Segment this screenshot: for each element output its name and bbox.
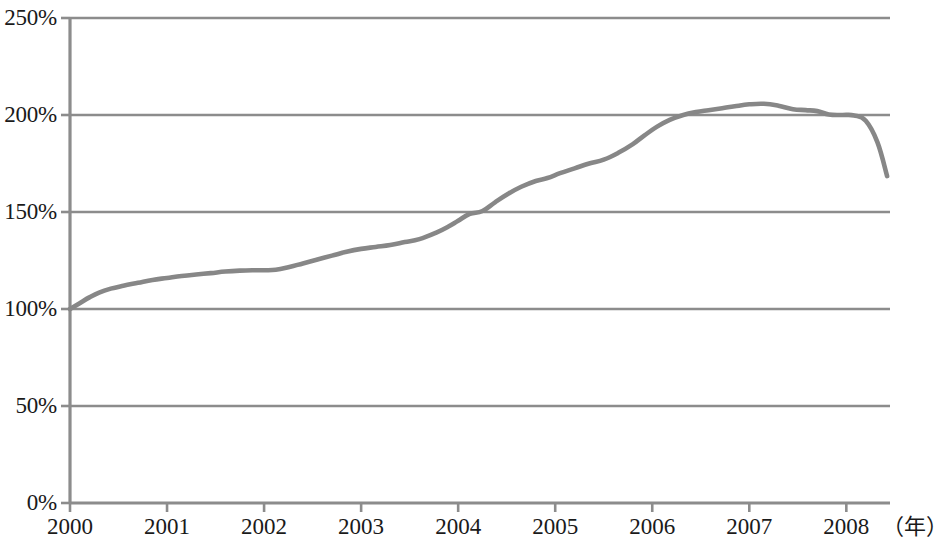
x-axis-tick-label: 2006 bbox=[612, 515, 692, 538]
x-axis-tick-label: 2000 bbox=[30, 515, 110, 538]
x-axis-tick-label: 2002 bbox=[224, 515, 304, 538]
x-axis-tick-label: 2004 bbox=[418, 515, 498, 538]
y-axis-tick-label: 200% bbox=[4, 103, 57, 126]
x-axis-tick-label: 2001 bbox=[127, 515, 207, 538]
y-axis-tick-label: 100% bbox=[4, 297, 57, 320]
x-axis-tick-label: 2003 bbox=[321, 515, 401, 538]
x-axis-tick-label: 2007 bbox=[709, 515, 789, 538]
y-axis-tick-label: 250% bbox=[4, 6, 57, 29]
y-axis-tick-label: 50% bbox=[15, 394, 57, 417]
x-axis-tick-label: 2005 bbox=[515, 515, 595, 538]
x-axis-unit-label: （年） bbox=[882, 515, 938, 538]
y-axis-tick-label: 150% bbox=[4, 200, 57, 223]
y-axis-tick-label: 0% bbox=[27, 491, 57, 514]
x-axis-tick-label: 2008 bbox=[806, 515, 886, 538]
